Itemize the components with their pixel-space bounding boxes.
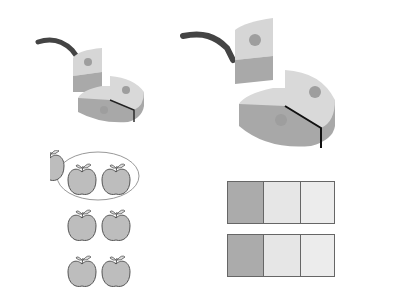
- fraction-bar-2: [227, 234, 337, 278]
- removed-slice: [235, 18, 273, 84]
- apple-icon: [50, 150, 64, 180]
- large-cake-illustration: [175, 8, 355, 158]
- fraction-bar-1: [227, 181, 337, 225]
- removed-slice: [73, 48, 102, 92]
- cake-server-handle: [183, 35, 233, 61]
- small-cake-illustration: [30, 20, 160, 130]
- apples-illustration: [50, 150, 160, 300]
- cake-server-handle: [38, 40, 78, 58]
